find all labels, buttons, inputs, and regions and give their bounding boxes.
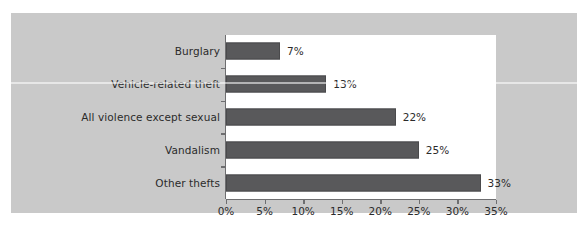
category-label: All violence except sexual [81, 111, 220, 123]
x-axis-tick-label: 0% [218, 205, 235, 217]
bar-value-label: 33% [488, 177, 511, 189]
chart-row: Burglary7% [11, 35, 588, 68]
chart-row: Vehicle-related theft13% [11, 68, 588, 101]
chart-row: Vandalism25% [11, 133, 588, 166]
x-axis-tick-label: 30% [446, 205, 469, 217]
chart-row: All violence except sexual22% [11, 101, 588, 134]
x-axis-tick-label: 10% [291, 205, 314, 217]
category-label: Other thefts [155, 177, 220, 189]
bar [226, 141, 419, 158]
bar [226, 174, 481, 191]
bar [226, 108, 396, 125]
chart-row: Other thefts33% [11, 166, 588, 199]
bar [226, 76, 326, 93]
x-axis-tick [380, 200, 381, 204]
chart-figure-panel: Burglary7%Vehicle-related theft13%All vi… [11, 13, 577, 213]
x-axis-tick [419, 200, 420, 204]
bar-value-label: 13% [333, 78, 356, 90]
x-axis-tick [226, 200, 227, 204]
x-axis-tick-label: 35% [484, 205, 507, 217]
category-label: Burglary [175, 45, 220, 57]
bar-value-label: 7% [287, 45, 304, 57]
x-axis-tick [496, 200, 497, 204]
y-axis-line [225, 35, 226, 199]
bar-value-label: 25% [426, 144, 449, 156]
bar [226, 43, 280, 60]
x-axis-tick [457, 200, 458, 204]
bar-value-label: 22% [403, 111, 426, 123]
x-axis-tick-label: 5% [256, 205, 273, 217]
x-axis-tick [342, 200, 343, 204]
x-axis-line [226, 199, 496, 200]
bar-rows: Burglary7%Vehicle-related theft13%All vi… [11, 35, 588, 199]
x-axis-tick [303, 200, 304, 204]
category-label: Vandalism [165, 144, 220, 156]
category-label: Vehicle-related theft [111, 78, 220, 90]
x-axis-tick-label: 25% [407, 205, 430, 217]
x-axis-tick-label: 15% [330, 205, 353, 217]
x-axis-tick [265, 200, 266, 204]
x-axis-tick-label: 20% [369, 205, 392, 217]
